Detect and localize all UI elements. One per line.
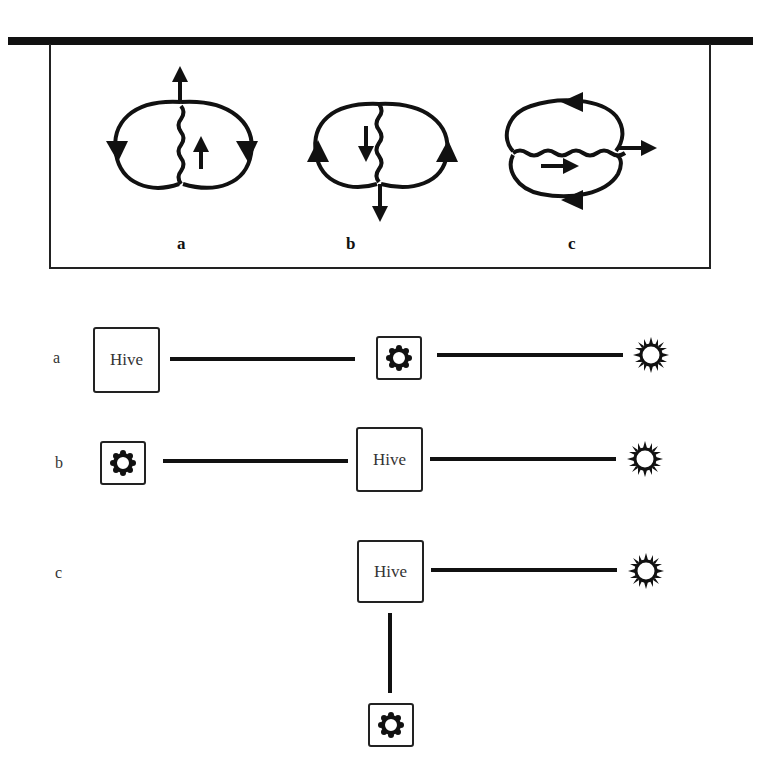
sun-icon [632, 336, 670, 374]
hive-box-c: Hive [357, 540, 424, 603]
hive-box-a: Hive [93, 327, 160, 393]
flower-icon [109, 449, 137, 477]
flower-box-b [100, 441, 146, 485]
row-label-b: b [55, 454, 63, 472]
hive-box-b: Hive [356, 427, 423, 492]
diagram-label-a: a [177, 234, 186, 254]
diagram-label-b: b [346, 234, 355, 254]
row-label-c: c [55, 564, 62, 582]
sun-icon [627, 552, 665, 590]
diagram-label-c: c [568, 234, 576, 254]
line-hive-to-sun-c [431, 568, 617, 572]
line-hive-to-flower-a [170, 357, 355, 361]
flower-icon [377, 711, 405, 739]
line-hive-to-flower-c [388, 613, 392, 693]
flower-box-a [376, 336, 422, 380]
waggle-dance-diagrams [51, 44, 713, 269]
line-flower-to-hive-b [163, 459, 348, 463]
flower-box-c [368, 703, 414, 747]
dance-diagram-a [106, 74, 258, 188]
sun-icon [626, 440, 664, 478]
line-flower-to-sun-a [437, 353, 623, 357]
flower-icon [385, 344, 413, 372]
row-label-a: a [53, 349, 60, 367]
line-hive-to-sun-b [430, 457, 616, 461]
dance-diagram-c [507, 92, 649, 210]
dance-diagram-b [307, 104, 458, 214]
waggle-dance-panel: a b c [49, 44, 711, 269]
